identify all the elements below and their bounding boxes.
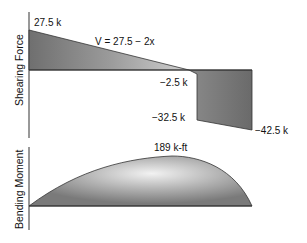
- shear-start-label: 27.5 k: [34, 18, 61, 28]
- shear-step-bottom-label: −32.5 k: [152, 113, 185, 123]
- shear-diagram: [29, 12, 252, 138]
- shear-step-top-label: −2.5 k: [160, 78, 188, 88]
- shear-equation-label: V = 27.5 − 2x: [95, 37, 155, 47]
- shear-axis-title: Shearing Force: [14, 34, 25, 106]
- shear-negative-region: [189, 70, 252, 130]
- moment-curve-region: [29, 156, 252, 206]
- moment-axis-title: Bending Moment: [14, 150, 25, 229]
- shear-end-label: −42.5 k: [255, 126, 288, 136]
- moment-diagram: [29, 147, 252, 230]
- moment-max-label: 189 k-ft: [154, 143, 187, 153]
